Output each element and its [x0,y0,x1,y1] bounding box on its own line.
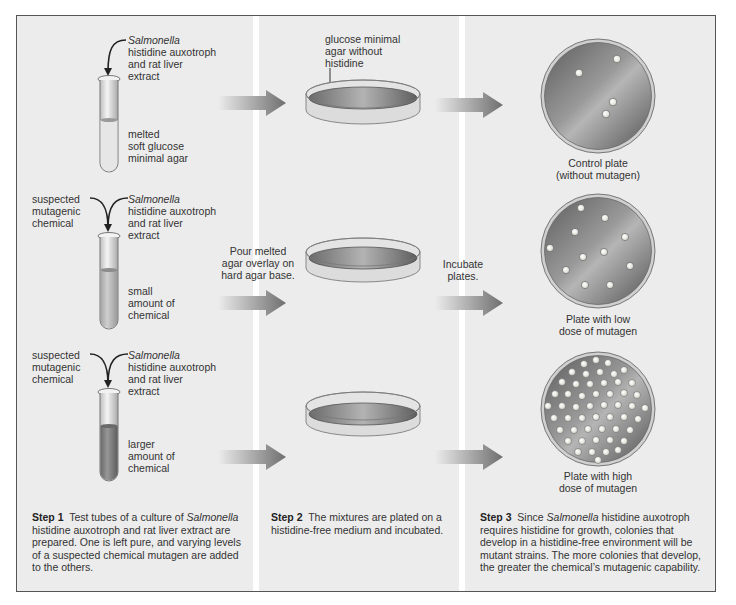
flow-arrow-icon [435,92,505,118]
input-arrow-icon [100,36,130,76]
flow-arrow-icon [435,444,505,470]
step2-description: Step 2 The mixtures are plated on a hist… [271,511,456,536]
agar-plate-label: glucose minimal agar without histidine [325,33,400,69]
tube3-chemical-label: suspected mutagenic chemical [32,349,92,385]
low-dose-plate-caption: Plate with low dose of mutagen [548,313,648,337]
tube1-input-label: Salmonella histidine auxotroph and rat l… [128,34,216,82]
step1-description: Step 1 Test tubes of a culture of Salmon… [32,511,247,574]
test-tube-icon [97,75,121,175]
petri-dish-icon [304,78,422,132]
flow-arrow-icon [218,444,288,470]
pour-agar-label: Pour melted agar overlay on hard agar ba… [208,245,308,281]
test-tube-icon [97,232,121,332]
merge-arrow-icon [88,350,132,390]
tube3-contents-label: larger amount of chemical [128,438,175,474]
incubate-label: Incubate plates. [428,258,498,282]
merge-arrow-icon [88,194,132,234]
tube2-chemical-label: suspected mutagenic chemical [32,193,92,229]
flow-arrow-icon [218,90,288,116]
tube3-input-label: Salmonella histidine auxotroph and rat l… [128,349,216,397]
tube2-input-label: Salmonella histidine auxotroph and rat l… [128,193,216,241]
petri-dish-icon [304,236,422,290]
step3-description: Step 3 Since Salmonella histidine auxotr… [480,511,710,574]
tube1-contents-label: melted soft glucose minimal agar [128,128,188,164]
tube2-contents-label: small amount of chemical [128,285,175,321]
high-dose-plate-caption: Plate with high dose of mutagen [548,470,648,494]
low-dose-plate-icon [539,192,657,310]
control-plate-icon [539,37,657,155]
flow-arrow-icon [435,290,505,316]
petri-dish-icon [304,390,422,444]
control-plate-caption: Control plate (without mutagen) [548,157,648,181]
flow-arrow-icon [218,290,288,316]
high-dose-plate-icon [538,350,658,468]
test-tube-icon [97,388,121,488]
